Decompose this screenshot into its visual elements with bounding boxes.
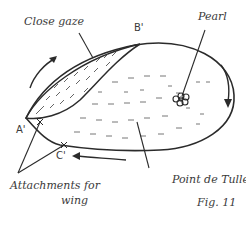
close-gaze-hatching [36,52,116,114]
label-close-gaze: Close gaze [24,16,84,27]
direction-arrow-bottom [72,152,126,160]
label-a-prime: A' [16,125,26,135]
label-c-prime: C' [56,151,66,161]
figure-caption: Fig. 11 [197,197,236,208]
pearl-icon [173,93,189,106]
label-pearl: Pearl [198,11,227,22]
tulle-leader [137,122,149,168]
wing-diagram: Close gaze B' Pearl A' C' Attachments fo… [0,0,246,226]
pearl-leader [182,30,205,96]
label-point-de-tulle: Point de Tulle [172,174,246,185]
close-gaze-leader [79,33,93,58]
label-attachments-wing: wing [61,195,88,206]
label-attachments: Attachments for [10,180,100,191]
wing-outline [26,43,234,150]
label-b-prime: B' [134,23,144,33]
wing-drawing [0,0,246,226]
